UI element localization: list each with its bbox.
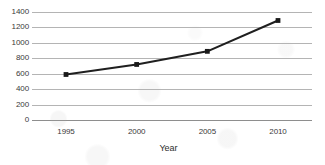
y-tick-label: 200 (1, 101, 29, 109)
x-tick-label: 2000 (128, 128, 145, 136)
y-tick-label: 1000 (1, 39, 29, 47)
data-point-marker (205, 49, 210, 54)
series-line (66, 20, 278, 74)
y-tick-label: 400 (1, 85, 29, 93)
y-tick-label: 0 (1, 116, 29, 124)
x-axis-title-text: Year (159, 143, 177, 153)
series-line-group (32, 12, 312, 120)
x-axis-baseline (32, 120, 312, 121)
y-axis-tick-labels: 1400 1200 1000 800 600 400 200 0 (0, 0, 29, 165)
data-point-marker (276, 18, 281, 23)
x-tick-label: 2010 (269, 128, 286, 136)
x-tick-label: 1995 (57, 128, 74, 136)
line-chart: 1400 1200 1000 800 600 400 200 0 1995 20… (0, 0, 325, 165)
x-axis-title: Year (0, 143, 325, 153)
data-point-marker (134, 62, 139, 67)
y-tick-label: 1200 (1, 23, 29, 31)
y-tick-label: 800 (1, 54, 29, 62)
x-tick-label: 2005 (199, 128, 216, 136)
plot-area (32, 12, 312, 120)
data-point-marker (64, 72, 69, 77)
y-tick-label: 1400 (1, 8, 29, 16)
x-axis-tick-labels: 1995 2000 2005 2010 (0, 128, 325, 140)
y-tick-label: 600 (1, 70, 29, 78)
